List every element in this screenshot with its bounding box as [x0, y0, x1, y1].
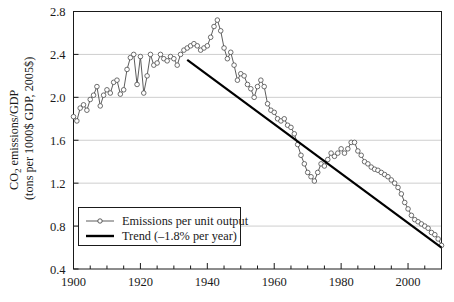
data-point: [249, 86, 254, 91]
chart-background: [0, 0, 454, 302]
y-tick-label: 1.6: [50, 134, 66, 148]
co2-emissions-per-gdp-chart: 190019201940196019802000 0.40.81.21.62.0…: [0, 0, 454, 302]
data-point: [225, 56, 230, 61]
data-point: [71, 114, 76, 119]
data-point: [292, 132, 297, 137]
data-point: [299, 153, 304, 158]
data-point: [155, 61, 160, 66]
data-point: [165, 59, 170, 64]
data-point: [125, 67, 130, 72]
data-point: [342, 151, 347, 156]
data-point: [335, 151, 340, 156]
data-point: [346, 147, 351, 152]
y-tick-label: 0.4: [50, 263, 66, 277]
data-point: [339, 147, 344, 152]
data-point: [245, 82, 250, 87]
x-tick-label: 1960: [262, 275, 287, 289]
chart-legend: Emissions per unit output Trend (–1.8% p…: [79, 208, 249, 246]
data-point: [135, 82, 140, 87]
data-point: [141, 91, 146, 96]
data-point: [259, 78, 264, 83]
data-point: [158, 52, 163, 57]
y-axis-title-line2: (tons per 1000$ GDP, 2005$): [22, 57, 36, 200]
data-point: [426, 226, 431, 231]
y-tick-label: 2.8: [50, 5, 66, 19]
data-point: [205, 44, 210, 49]
data-point: [309, 174, 314, 179]
data-point: [145, 74, 150, 79]
data-point: [115, 78, 120, 83]
x-tick-label: 1940: [195, 275, 220, 289]
data-point: [228, 50, 233, 55]
data-point: [212, 24, 217, 29]
figure-container: 190019201940196019802000 0.40.81.21.62.0…: [0, 0, 454, 302]
legend-swatch-emissions-marker: [98, 219, 102, 223]
data-point: [81, 103, 86, 108]
data-point: [352, 140, 357, 145]
data-point: [399, 192, 404, 197]
data-point: [356, 149, 361, 154]
data-point: [282, 116, 287, 121]
data-point: [396, 185, 401, 190]
data-point: [315, 170, 320, 175]
data-point: [138, 54, 143, 59]
data-point: [215, 18, 220, 23]
y-tick-label: 0.8: [50, 220, 66, 234]
data-point: [312, 179, 317, 184]
data-point: [322, 164, 327, 169]
y-tick-label: 2.4: [50, 48, 66, 62]
data-point: [208, 35, 213, 40]
data-point: [118, 92, 123, 97]
data-point: [121, 88, 126, 93]
data-point: [98, 104, 103, 109]
data-point: [175, 63, 180, 68]
data-point: [235, 78, 240, 83]
data-point: [148, 52, 153, 57]
y-axis-title-co: CO: [7, 173, 21, 190]
data-point: [433, 232, 438, 237]
x-tick-label: 1980: [329, 275, 354, 289]
data-point: [195, 44, 200, 49]
data-point: [359, 153, 364, 158]
data-point: [178, 52, 183, 57]
y-axis-title-rest: emissions/GDP: [7, 89, 21, 168]
data-point: [262, 84, 267, 89]
data-point: [131, 52, 136, 57]
x-tick-label: 1920: [128, 275, 153, 289]
data-point: [255, 84, 260, 89]
data-point: [272, 110, 277, 115]
x-tick-label: 2000: [396, 275, 421, 289]
legend-label-trend: Trend (–1.8% per year): [122, 229, 237, 243]
data-point: [409, 213, 414, 218]
data-point: [302, 162, 307, 167]
data-point: [252, 95, 257, 100]
y-tick-label: 1.2: [50, 177, 66, 191]
data-point: [436, 237, 441, 242]
data-point: [91, 93, 96, 98]
y-axis-title-line1: CO2 emissions/GDP: [7, 89, 23, 190]
data-point: [108, 91, 113, 96]
data-point: [85, 108, 90, 113]
data-point: [305, 170, 310, 175]
data-point: [289, 125, 294, 130]
data-point: [222, 46, 227, 51]
data-point: [406, 207, 411, 212]
x-tick-label: 1900: [61, 275, 86, 289]
data-point: [101, 93, 106, 98]
data-point: [75, 119, 80, 124]
data-point: [172, 56, 177, 61]
data-point: [232, 63, 237, 68]
data-point: [218, 29, 223, 34]
data-point: [242, 74, 247, 79]
data-point: [88, 97, 93, 102]
data-point: [265, 101, 270, 106]
y-tick-label: 2.0: [50, 91, 66, 105]
legend-label-emissions: Emissions per unit output: [122, 214, 249, 228]
data-point: [402, 200, 407, 205]
data-point: [392, 181, 397, 186]
data-point: [95, 84, 100, 89]
